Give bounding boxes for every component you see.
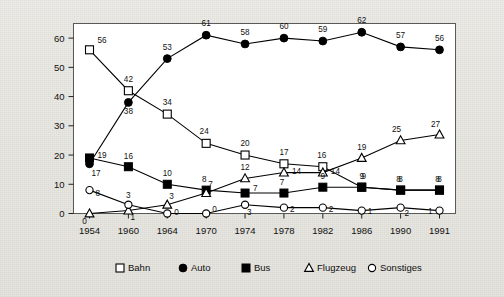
data-label: 8 xyxy=(96,189,101,198)
data-point xyxy=(280,34,288,42)
data-label: 2 xyxy=(290,205,295,214)
data-point xyxy=(124,163,132,171)
x-tick-label: 1954 xyxy=(79,225,100,236)
data-point xyxy=(436,207,443,214)
chart-legend: BahnAutoBusFlugzeugSonstiges xyxy=(116,262,422,273)
data-label: 7 xyxy=(253,184,258,193)
data-label: 42 xyxy=(124,75,134,84)
legend-item-flugzeug: Flugzeug xyxy=(305,262,356,273)
x-tick-label: 1978 xyxy=(273,225,294,236)
data-point xyxy=(125,201,132,208)
data-label: 27 xyxy=(431,120,441,129)
data-point xyxy=(124,99,132,107)
legend-item-bahn: Bahn xyxy=(116,262,150,273)
data-label: 58 xyxy=(241,28,251,37)
data-label: 38 xyxy=(124,107,134,116)
data-label: 8 xyxy=(398,175,403,184)
y-tick-label: 60 xyxy=(54,33,65,44)
data-label: 0 xyxy=(174,208,179,217)
legend-label: Flugzeug xyxy=(317,262,356,273)
legend-item-sonstiges: Sonstiges xyxy=(368,262,422,273)
data-point xyxy=(124,87,132,95)
legend-item-bus: Bus xyxy=(242,262,271,273)
legend-item-auto: Auto xyxy=(179,262,210,273)
data-point xyxy=(436,46,444,54)
data-point xyxy=(163,110,171,118)
data-label: 1 xyxy=(130,213,135,222)
data-label: 25 xyxy=(392,125,402,134)
data-label: 2 xyxy=(329,205,334,214)
y-tick-label: 40 xyxy=(54,91,65,102)
y-tick-label: 50 xyxy=(54,62,65,73)
data-point xyxy=(280,204,287,211)
data-label: 59 xyxy=(318,25,328,34)
legend-marker-filled-circle xyxy=(179,264,187,272)
data-point xyxy=(241,151,249,159)
x-tick-label: 1964 xyxy=(157,225,178,236)
data-point xyxy=(163,180,171,188)
line-chart-figure: 0102030405060 19541960196419701974197819… xyxy=(0,0,504,297)
y-tick-label: 20 xyxy=(54,150,65,161)
y-tick-label: 30 xyxy=(54,120,65,131)
data-label: 10 xyxy=(163,169,173,178)
data-label: 60 xyxy=(279,22,289,31)
data-label: 24 xyxy=(200,127,210,136)
data-point xyxy=(280,189,288,197)
legend-label: Auto xyxy=(191,262,211,273)
data-label: 62 xyxy=(357,16,367,25)
data-label: 3 xyxy=(126,191,131,200)
y-tick-label: 10 xyxy=(54,179,65,190)
x-tick-label: 1990 xyxy=(390,225,411,236)
data-label: 57 xyxy=(396,31,406,40)
data-point xyxy=(202,139,210,147)
data-label: 0 xyxy=(82,217,87,226)
data-point xyxy=(358,207,365,214)
data-label: 2 xyxy=(405,209,410,218)
data-point xyxy=(163,55,171,63)
data-point xyxy=(164,210,171,217)
data-label: 56 xyxy=(98,36,108,45)
data-point xyxy=(86,46,94,54)
data-label: 7 xyxy=(208,180,213,189)
y-axis: 0102030405060 xyxy=(54,33,74,219)
data-point xyxy=(241,40,249,48)
data-point xyxy=(202,31,210,39)
x-tick-label: 1960 xyxy=(118,225,139,236)
data-label: 56 xyxy=(435,34,445,43)
data-label: 34 xyxy=(163,98,173,107)
data-point xyxy=(397,43,405,51)
plot-area xyxy=(74,24,456,214)
data-label: 20 xyxy=(241,139,251,148)
data-label: 3 xyxy=(247,208,252,217)
data-point xyxy=(436,186,444,194)
legend-marker-filled-square xyxy=(242,264,250,272)
legend-marker-open-circle xyxy=(368,264,375,271)
data-label: 1 xyxy=(428,207,433,216)
data-point xyxy=(203,210,210,217)
data-label: 17 xyxy=(279,148,289,157)
data-point xyxy=(241,189,249,197)
legend-marker-open-square xyxy=(116,264,124,272)
data-point xyxy=(86,154,94,162)
data-point xyxy=(397,204,404,211)
data-label: 16 xyxy=(317,151,327,160)
legend-label: Bahn xyxy=(128,262,150,273)
legend-label: Sonstiges xyxy=(380,262,422,273)
x-tick-label: 1974 xyxy=(234,225,255,236)
data-label: 12 xyxy=(241,163,251,172)
data-label: 9 xyxy=(321,172,326,181)
data-point xyxy=(397,186,405,194)
data-label: 0 xyxy=(212,205,217,214)
data-point xyxy=(319,37,327,45)
data-point xyxy=(86,187,93,194)
data-label: 14 xyxy=(331,167,341,176)
data-label: 8 xyxy=(437,175,442,184)
data-label: 1 xyxy=(368,207,373,216)
data-label: 16 xyxy=(124,152,134,161)
x-tick-label: 1982 xyxy=(312,225,333,236)
data-point xyxy=(319,183,327,191)
data-label: 14 xyxy=(292,167,302,176)
data-label: 61 xyxy=(202,19,212,28)
data-label: 9 xyxy=(359,172,364,181)
data-label: 19 xyxy=(98,151,108,160)
